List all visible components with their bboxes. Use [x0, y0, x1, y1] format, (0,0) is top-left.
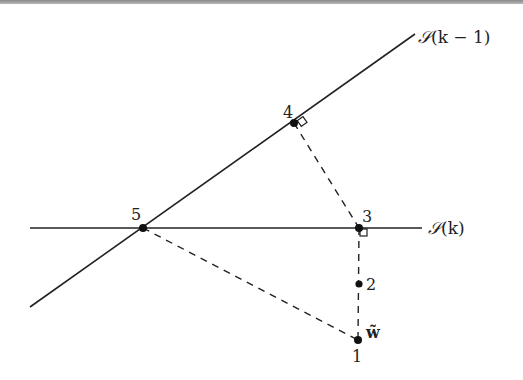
point-2 [355, 280, 362, 287]
label-point-3: 3 [362, 207, 372, 226]
label-s-k-minus-1: 𝒮(k − 1) [418, 27, 490, 47]
right-angle-marker-4 [297, 117, 307, 127]
dashed-4-to-3 [294, 123, 359, 228]
label-point-2: 2 [366, 275, 376, 294]
dashed-5-to-1 [143, 228, 358, 340]
label-s-k-args: (k) [441, 218, 465, 238]
label-point-1: 1 [352, 347, 362, 366]
projection-diagram: 5 4 3 2 1 w̃ 𝒮(k − 1) 𝒮(k) [0, 0, 523, 380]
label-s-k-minus-1-args: (k − 1) [431, 27, 490, 47]
point-1 [354, 336, 362, 344]
label-w-tilde: w̃ [365, 323, 381, 342]
label-s-k: 𝒮(k) [428, 218, 465, 238]
label-point-4: 4 [283, 103, 293, 122]
line-s-k-minus-1 [30, 34, 415, 307]
label-point-5: 5 [131, 205, 141, 224]
point-5 [139, 224, 147, 232]
